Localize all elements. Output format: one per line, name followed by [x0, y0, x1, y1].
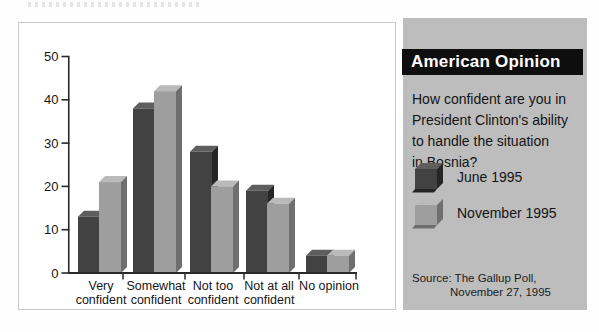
y-tick-label-40: 40 [44, 92, 58, 107]
question-line: How confident are you in [412, 89, 582, 110]
y-tick-label-30: 30 [44, 136, 58, 151]
bar-june-1995-very-confident [78, 217, 100, 273]
legend-item-november-1995: November 1995 [412, 197, 557, 229]
legend-label: June 1995 [457, 169, 522, 185]
bar-november-1995-not-at-all-confident-side [289, 198, 295, 273]
bar-june-1995-no-opinion [306, 256, 328, 273]
bar-november-1995-not-too-confident [211, 186, 233, 273]
x-category-label-no-opinion: No opinion [299, 279, 359, 293]
bar-november-1995-not-at-all-confident [267, 204, 289, 273]
bar-november-1995-somewhat-confident [154, 91, 176, 273]
x-category-label-very-confident: Veryconfident [76, 279, 127, 307]
x-category-label-somewhat-confident: Somewhatconfident [126, 279, 186, 307]
bar-november-1995-very-confident [99, 182, 121, 273]
scan-artifact [28, 2, 203, 7]
y-tick-label-50: 50 [44, 49, 58, 64]
bar-november-1995-somewhat-confident-side [176, 85, 182, 273]
bar-june-1995-not-too-confident [190, 152, 212, 273]
bar-november-1995-very-confident-side [121, 176, 127, 273]
legend-cube-icon [412, 197, 446, 229]
source-note: Source: The Gallup Poll, November 27, 19… [412, 271, 551, 299]
panel-banner: American Opinion [402, 49, 583, 75]
source-line: Source: The Gallup Poll, [412, 271, 551, 285]
source-line: November 27, 1995 [450, 285, 551, 299]
y-tick-label-0: 0 [51, 266, 58, 281]
legend-item-june-1995: June 1995 [412, 161, 557, 193]
bar-june-1995-not-at-all-confident [246, 191, 268, 273]
question-line: President Clinton's ability [412, 110, 582, 131]
x-category-label-not-too-confident: Not tooconfident [188, 279, 239, 307]
bar-november-1995-no-opinion [327, 256, 349, 273]
bar-chart: 01020304050VeryconfidentSomewhatconfiden… [19, 23, 393, 307]
y-tick-label-20: 20 [44, 179, 58, 194]
x-category-label-not-at-all-confident: Not at allconfident [244, 279, 295, 307]
y-tick-label-10: 10 [44, 222, 58, 237]
bar-november-1995-not-too-confident-side [233, 180, 239, 273]
legend-label: November 1995 [457, 205, 557, 221]
info-panel: American Opinion How confident are you i… [403, 18, 587, 310]
question-line: to handle the situation [412, 131, 582, 152]
panel-title: American Opinion [411, 52, 561, 71]
legend-cube-icon [412, 161, 446, 193]
bar-june-1995-somewhat-confident [133, 108, 155, 273]
chart-legend: June 1995 November 1995 [412, 161, 557, 233]
bar-chart-panel: 01020304050VeryconfidentSomewhatconfiden… [18, 22, 396, 310]
